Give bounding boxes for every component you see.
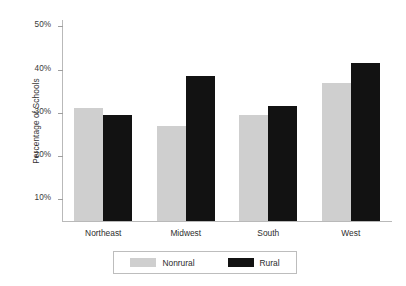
bar-chart: Percentage of Schools 10%20%30%40%50% No… — [0, 0, 406, 286]
y-tick-50: 50% — [58, 26, 63, 27]
bar-west-nonrural — [322, 83, 351, 221]
legend-swatch-nonrural-icon — [130, 258, 156, 267]
y-axis-line — [62, 20, 63, 222]
y-tick-label-30: 30% — [35, 107, 51, 116]
bar-northeast-rural — [103, 115, 132, 221]
y-tick-10: 10% — [58, 199, 63, 200]
bar-south-nonrural — [239, 115, 268, 221]
bar-northeast-nonrural — [74, 108, 103, 221]
bar-west-rural — [351, 63, 380, 221]
legend-entry-nonrural: Nonrural — [130, 258, 194, 268]
plot-area: 10%20%30%40%50% NortheastMidwestSouthWes… — [62, 20, 392, 222]
x-category-label-west: West — [341, 228, 360, 238]
y-tick-20: 20% — [58, 156, 63, 157]
bar-midwest-rural — [186, 76, 215, 221]
legend-label-rural: Rural — [260, 258, 280, 268]
bar-south-rural — [268, 106, 297, 221]
x-axis-line — [62, 221, 392, 222]
x-category-label-south: South — [257, 228, 279, 238]
y-tick-30: 30% — [58, 113, 63, 114]
x-category-label-northeast: Northeast — [85, 228, 121, 238]
y-tick-label-10: 10% — [35, 193, 51, 202]
y-tick-label-50: 50% — [35, 20, 51, 29]
legend-label-nonrural: Nonrural — [162, 258, 194, 268]
y-tick-label-20: 20% — [35, 150, 51, 159]
y-tick-label-40: 40% — [35, 64, 51, 73]
legend-swatch-rural-icon — [228, 258, 254, 267]
chart-legend: Nonrural Rural — [113, 251, 297, 274]
bar-midwest-nonrural — [157, 126, 186, 221]
x-category-label-midwest: Midwest — [170, 228, 201, 238]
legend-entry-rural: Rural — [228, 258, 280, 268]
y-tick-40: 40% — [58, 70, 63, 71]
